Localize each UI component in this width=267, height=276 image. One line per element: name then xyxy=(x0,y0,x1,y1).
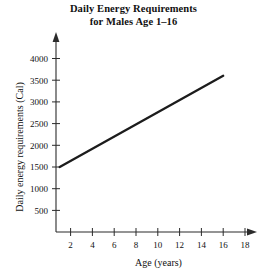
y-tick-label-1500: 1500 xyxy=(30,162,49,172)
x-tick-label-18: 18 xyxy=(241,240,251,250)
y-tick-label-1000: 1000 xyxy=(30,184,49,194)
x-tick-label-6: 6 xyxy=(112,240,117,250)
x-axis-label: Age (years) xyxy=(56,257,261,268)
y-tick-label-2000: 2000 xyxy=(30,141,49,151)
y-axis-label: Daily energy requirements (Cal) xyxy=(14,82,25,212)
plot-area: 4000 3500 3000 2500 2000 1500 1000 500 2… xyxy=(0,0,267,276)
x-tick-label-12: 12 xyxy=(175,240,184,250)
y-tick-label-500: 500 xyxy=(35,206,49,216)
x-axis-arrow-icon xyxy=(247,229,257,236)
x-tick-label-4: 4 xyxy=(90,240,95,250)
x-tick-label-10: 10 xyxy=(153,240,163,250)
x-tick-label-8: 8 xyxy=(134,240,139,250)
x-tick-label-14: 14 xyxy=(197,240,207,250)
x-tick-label-2: 2 xyxy=(68,240,73,250)
y-axis-label-wrapper: Daily energy requirements (Cal) xyxy=(9,52,23,242)
y-tick-label-4000: 4000 xyxy=(30,54,49,64)
y-tick-label-3500: 3500 xyxy=(30,76,49,86)
chart-figure: Daily Energy Requirements for Males Age … xyxy=(0,0,267,276)
x-tick-label-16: 16 xyxy=(219,240,229,250)
y-axis-arrow-icon xyxy=(53,32,60,42)
data-series-line xyxy=(60,76,224,167)
y-tick-label-2500: 2500 xyxy=(30,119,49,129)
y-tick-label-3000: 3000 xyxy=(30,97,49,107)
